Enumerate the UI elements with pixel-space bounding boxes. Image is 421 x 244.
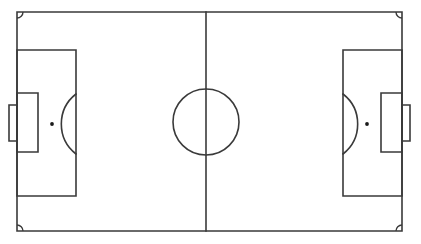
pitch-diagram-container	[0, 0, 421, 244]
left-penalty-spot	[50, 122, 54, 126]
soccer-pitch-diagram	[0, 0, 421, 244]
right-penalty-spot	[365, 122, 369, 126]
